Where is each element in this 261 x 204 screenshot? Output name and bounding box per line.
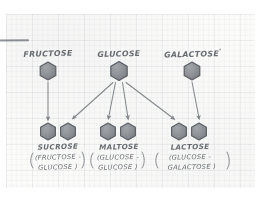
label-sucrose-composition-2: GLUCOSE ) bbox=[31, 162, 85, 172]
label-lactose-composition-1: (GLUCOSE - bbox=[157, 152, 223, 162]
diagram-artwork bbox=[0, 0, 261, 204]
label-fructose: FRUCTOSE bbox=[20, 48, 76, 59]
hexagon-sucrose-fructose-unit bbox=[41, 123, 56, 140]
hexagon-lactose-glucose-unit bbox=[172, 123, 187, 140]
label-sucrose-composition-1-text: (FRUCTOSE - bbox=[35, 153, 81, 162]
hexagon-galactose bbox=[184, 62, 200, 80]
arrow-glucose-to-lactose bbox=[126, 83, 174, 119]
label-glucose: GLUCOSE bbox=[92, 49, 146, 59]
label-sucrose-composition-1: (FRUCTOSE - bbox=[31, 152, 85, 162]
label-lactose-composition-2-text: GALACTOSE ) bbox=[168, 163, 217, 172]
label-sucrose-composition-2-text: GLUCOSE ) bbox=[38, 163, 78, 172]
label-maltose-name-text: MALTOSE bbox=[99, 142, 139, 152]
label-galactose-superscript: ° bbox=[219, 47, 222, 53]
arrow-galactose-to-lactose bbox=[192, 82, 199, 118]
hexagon-sucrose-glucose-unit bbox=[61, 123, 76, 140]
arrow-glucose-to-maltose-right bbox=[123, 83, 129, 119]
label-maltose-composition-1-text: (GLUCOSE - bbox=[97, 153, 139, 162]
label-fructose-text: FRUCTOSE bbox=[23, 49, 72, 59]
hexagon-lactose-galactose-unit bbox=[192, 123, 207, 140]
paren-close-lactose bbox=[227, 152, 229, 169]
hexagon-maltose-glucose-unit-a bbox=[101, 123, 116, 140]
hexagon-glucose bbox=[111, 62, 127, 81]
diagram-canvas: FRUCTOSE GLUCOSE GALACTOSE° SUCROSE (FRU… bbox=[0, 0, 261, 204]
label-maltose-name: MALTOSE bbox=[92, 142, 146, 152]
arrow-glucose-to-maltose-left bbox=[109, 83, 116, 119]
label-lactose-name-text: LACTOSE bbox=[171, 142, 210, 152]
label-galactose: GALACTOSE° bbox=[160, 47, 226, 59]
label-galactose-text: GALACTOSE bbox=[164, 49, 219, 59]
arrow-glucose-to-sucrose bbox=[74, 83, 114, 119]
label-lactose-composition-1-text: (GLUCOSE - bbox=[169, 153, 211, 162]
label-maltose-composition-1: (GLUCOSE - bbox=[91, 153, 145, 162]
label-glucose-text: GLUCOSE bbox=[97, 49, 140, 59]
hexagon-fructose bbox=[40, 62, 56, 80]
hexagon-maltose-glucose-unit-b bbox=[121, 123, 136, 140]
label-maltose-composition-2-text: GLUCOSE ) bbox=[98, 163, 138, 172]
label-sucrose-name-text: SUCROSE bbox=[38, 141, 79, 151]
label-maltose-composition-2: GLUCOSE ) bbox=[91, 163, 145, 172]
label-sucrose-name: SUCROSE bbox=[30, 141, 86, 152]
label-lactose-composition-2: GALACTOSE ) bbox=[157, 162, 227, 172]
label-lactose-name: LACTOSE bbox=[163, 142, 217, 152]
